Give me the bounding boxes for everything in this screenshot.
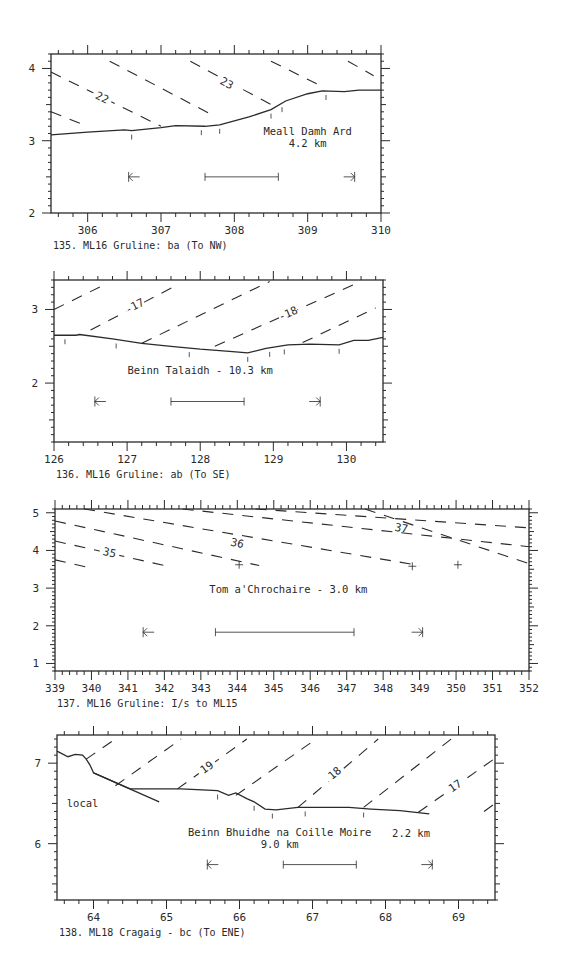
contour-line (365, 509, 529, 564)
contour-line (364, 739, 452, 807)
local-profile-line (94, 773, 160, 802)
contour-line (271, 61, 322, 86)
contour-line (236, 739, 316, 795)
y-tick-label: 3 (31, 303, 38, 316)
contour-line (54, 284, 105, 309)
x-tick-label: 68 (379, 911, 392, 924)
x-tick-label: 342 (154, 682, 174, 695)
y-tick-label: 6 (34, 838, 41, 851)
x-tick-label: 310 (371, 224, 391, 237)
chart-panel-136: 12612712812913023-17-18Beinn Talaidh - 1… (31, 271, 392, 480)
x-tick-label: 351 (483, 682, 503, 695)
x-tick-label: 349 (410, 682, 430, 695)
x-tick-label: 340 (82, 682, 102, 695)
contour-line (84, 509, 419, 566)
location-label: Beinn Talaidh - 10.3 km (128, 364, 273, 376)
local-label: local (67, 797, 99, 809)
x-tick-label: 341 (118, 682, 138, 695)
y-tick-label: 5 (32, 507, 39, 520)
x-tick-label: 67 (306, 911, 319, 924)
distance-label: 2.2 km (392, 827, 430, 839)
topographic-profile (57, 751, 429, 814)
x-tick-label: 339 (45, 682, 65, 695)
x-tick-label: 308 (224, 224, 244, 237)
location-label: 4.2 km (289, 137, 327, 149)
x-tick-label: 345 (264, 682, 284, 695)
figure-caption: 138. ML18 Cragaig - bc (To ENE) (59, 927, 246, 938)
x-tick-label: 343 (191, 682, 211, 695)
plot-frame (54, 280, 383, 442)
x-tick-label: 306 (78, 224, 98, 237)
contour-line (86, 739, 115, 759)
x-tick-label: 64 (87, 911, 101, 924)
contour-label: -17 (123, 296, 147, 317)
x-tick-label: 127 (117, 453, 137, 466)
contour-line (55, 560, 88, 568)
contour-label: -18 (276, 304, 299, 324)
location-label: 9.0 km (261, 838, 299, 850)
y-tick-label: 2 (32, 620, 39, 633)
cross-section-figure: 3063073083093102342223Meall Damh Ard4.2 … (0, 0, 568, 972)
x-tick-label: 352 (519, 682, 539, 695)
contour-line (51, 112, 88, 126)
x-tick-label: 66 (233, 911, 246, 924)
x-tick-label: 350 (446, 682, 466, 695)
contour-label: 36 (229, 536, 245, 552)
y-tick-label: 2 (28, 207, 35, 220)
plot-frame (57, 735, 495, 900)
location-label: Tom a'Chrochaire - 3.0 km (209, 583, 367, 595)
figure-caption: 135. ML16 Gruline: ba (To NW) (53, 240, 228, 251)
contour-line (115, 739, 181, 786)
x-tick-label: 346 (300, 682, 320, 695)
x-tick-label: 348 (373, 682, 393, 695)
y-tick-label: 4 (28, 62, 35, 75)
x-tick-label: 126 (44, 453, 64, 466)
x-tick-label: 309 (298, 224, 318, 237)
figure-caption: 136. ML16 Gruline: ab (To SE) (56, 469, 231, 480)
contour-line (142, 281, 270, 343)
x-tick-label: 347 (337, 682, 357, 695)
chart-panel-135: 3063073083093102342223Meall Damh Ard4.2 … (28, 45, 391, 251)
y-tick-label: 1 (32, 657, 39, 670)
y-tick-label: 4 (32, 544, 39, 557)
figure-caption: 137. ML16 Gruline: I/s to ML15 (57, 698, 238, 709)
x-tick-label: 128 (190, 453, 210, 466)
location-label: Meall Damh Ard (263, 125, 352, 137)
y-tick-label: 7 (34, 757, 41, 770)
contour-line (484, 803, 495, 811)
x-tick-label: 69 (452, 911, 465, 924)
location-label: Beinn Bhuidhe na Coille Moire (188, 826, 371, 838)
contour-label: 35 (102, 545, 118, 561)
x-tick-label: 129 (263, 453, 283, 466)
x-tick-label: 344 (227, 682, 247, 695)
chart-panel-137: 3393403413423433443453463473483493503513… (32, 500, 539, 709)
chart-panel-138: 64656667686967191817Beinn Bhuidhe na Coi… (34, 726, 504, 938)
y-tick-label: 3 (32, 582, 39, 595)
contour-line (303, 308, 376, 343)
x-tick-label: 130 (337, 453, 357, 466)
x-tick-label: 65 (160, 911, 173, 924)
x-tick-label: 307 (151, 224, 171, 237)
contour-line (348, 61, 374, 75)
y-tick-label: 2 (31, 377, 38, 390)
topographic-profile (54, 334, 383, 352)
y-tick-label: 3 (28, 135, 35, 148)
